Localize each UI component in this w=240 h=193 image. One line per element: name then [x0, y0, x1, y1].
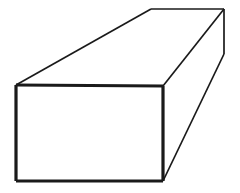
- rectangular-prism-figure: [0, 0, 240, 193]
- front-face: [16, 85, 163, 181]
- prism-svg: [0, 0, 240, 193]
- front-top-edge: [16, 85, 163, 86]
